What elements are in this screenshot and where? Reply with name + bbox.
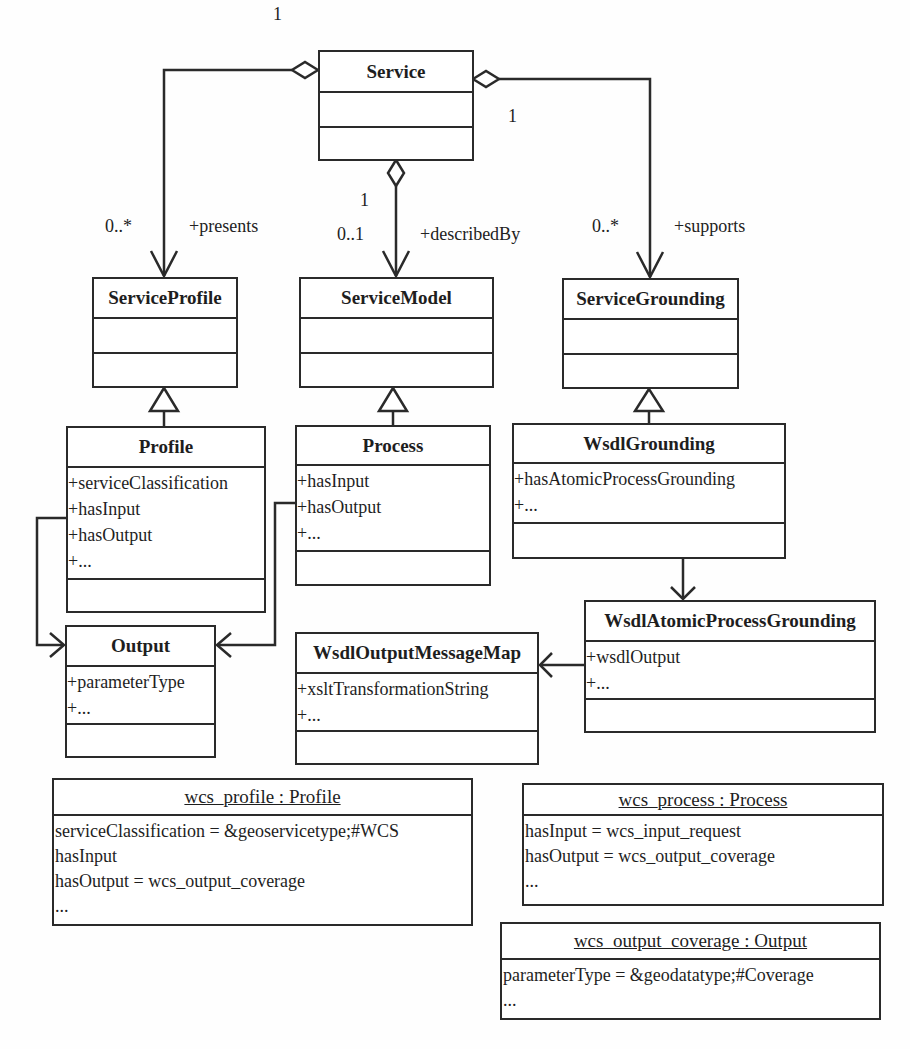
class-service-model[interactable]: ServiceModel xyxy=(299,277,494,388)
dependency-atomic-messagemap xyxy=(540,653,584,677)
attribute: +wsdlOutput xyxy=(586,644,874,670)
mult-describedBy-target: 0..1 xyxy=(337,224,364,245)
slot: hasOutput = wcs_output_coverage xyxy=(525,844,882,869)
attribute-compartment xyxy=(301,319,492,354)
mult-describedBy-source: 1 xyxy=(360,190,369,211)
attribute-compartment: +serviceClassification +hasInput +hasOut… xyxy=(68,468,264,580)
class-title: Output xyxy=(67,627,214,667)
generalization-profile xyxy=(150,388,178,426)
role-describedBy: +describedBy xyxy=(420,224,520,245)
attribute-compartment xyxy=(94,319,236,354)
attribute-compartment xyxy=(564,320,737,355)
dependency-grounding-atomic xyxy=(671,558,695,599)
attribute: +... xyxy=(67,695,214,721)
object-title: wcs_profile : Profile xyxy=(54,780,471,816)
role-presents: +presents xyxy=(189,216,258,237)
slot: serviceClassification = &geoservicetype;… xyxy=(55,819,471,844)
attribute-compartment: +wsdlOutput +... xyxy=(586,642,874,700)
attribute-compartment: +parameterType +... xyxy=(67,667,214,725)
dependency-profile-output xyxy=(37,518,66,657)
attribute: +hasInput xyxy=(68,496,264,522)
class-profile[interactable]: Profile +serviceClassification +hasInput… xyxy=(66,426,266,613)
class-wsdl-atomic-process-grounding[interactable]: WsdlAtomicProcessGrounding +wsdlOutput +… xyxy=(584,600,876,733)
slot-compartment: hasInput = wcs_input_request hasOutput =… xyxy=(524,816,882,894)
mult-supports-source: 1 xyxy=(508,106,517,127)
slot: hasInput xyxy=(55,844,471,869)
attribute: +hasInput xyxy=(297,468,489,494)
class-title: ServiceProfile xyxy=(94,279,236,319)
class-service[interactable]: Service xyxy=(318,50,474,161)
class-title: ServiceGrounding xyxy=(564,280,737,320)
slot: parameterType = &geodatatype;#Coverage xyxy=(503,963,879,988)
class-wsdl-grounding[interactable]: WsdlGrounding +hasAtomicProcessGrounding… xyxy=(512,423,786,559)
slot-compartment: serviceClassification = &geoservicetype;… xyxy=(54,816,471,919)
generalization-process xyxy=(379,388,407,425)
mult-presents-source: 1 xyxy=(273,4,282,25)
association-supports xyxy=(473,71,663,277)
class-service-profile[interactable]: ServiceProfile xyxy=(92,277,238,388)
object-wcs-process[interactable]: wcs_process : Process hasInput = wcs_inp… xyxy=(522,783,884,906)
attribute: +... xyxy=(68,548,264,574)
attribute: +... xyxy=(586,670,874,696)
uml-diagram: 1 0..* +presents 1 0..1 +describedBy 1 0… xyxy=(0,0,910,1049)
mult-supports-target: 0..* xyxy=(592,216,619,237)
class-title: WsdlGrounding xyxy=(514,425,784,464)
role-supports: +supports xyxy=(674,216,745,237)
attribute-compartment: +hasAtomicProcessGrounding +... xyxy=(514,464,784,524)
slot-compartment: parameterType = &geodatatype;#Coverage .… xyxy=(502,960,879,1013)
attribute-compartment: +xsltTransformationString +... xyxy=(297,674,537,732)
class-title: WsdlOutputMessageMap xyxy=(297,634,537,674)
class-title: Profile xyxy=(68,428,264,468)
generalization-wsdlgrounding xyxy=(635,389,663,423)
attribute: +parameterType xyxy=(67,669,214,695)
attribute: +hasAtomicProcessGrounding xyxy=(514,466,784,492)
attribute: +hasOutput xyxy=(297,494,489,520)
class-output[interactable]: Output +parameterType +... xyxy=(65,625,216,758)
association-presents xyxy=(151,62,318,276)
object-title: wcs_output_coverage : Output xyxy=(502,924,879,960)
class-wsdl-output-message-map[interactable]: WsdlOutputMessageMap +xsltTransformation… xyxy=(295,632,539,765)
attribute: +... xyxy=(297,520,489,546)
attribute: +serviceClassification xyxy=(68,470,264,496)
object-title: wcs_process : Process xyxy=(524,785,882,816)
attribute: +hasOutput xyxy=(68,522,264,548)
slot: ... xyxy=(503,988,879,1013)
attribute: +... xyxy=(297,702,537,728)
class-title: Process xyxy=(297,427,489,466)
class-title: Service xyxy=(320,52,472,93)
slot: ... xyxy=(55,894,471,919)
object-wcs-profile[interactable]: wcs_profile : Profile serviceClassificat… xyxy=(52,778,473,926)
class-title: ServiceModel xyxy=(301,279,492,319)
class-title: WsdlAtomicProcessGrounding xyxy=(586,602,874,642)
association-describedBy xyxy=(383,160,409,276)
mult-presents-target: 0..* xyxy=(105,216,132,237)
slot: hasInput = wcs_input_request xyxy=(525,819,882,844)
attribute-compartment xyxy=(320,93,472,128)
class-process[interactable]: Process +hasInput +hasOutput +... xyxy=(295,425,491,586)
object-wcs-output-coverage[interactable]: wcs_output_coverage : Output parameterTy… xyxy=(500,922,881,1020)
attribute: +... xyxy=(514,492,784,518)
class-service-grounding[interactable]: ServiceGrounding xyxy=(562,278,739,389)
attribute-compartment: +hasInput +hasOutput +... xyxy=(297,466,489,552)
slot: ... xyxy=(525,869,882,894)
attribute: +xsltTransformationString xyxy=(297,676,537,702)
slot: hasOutput = wcs_output_coverage xyxy=(55,869,471,894)
